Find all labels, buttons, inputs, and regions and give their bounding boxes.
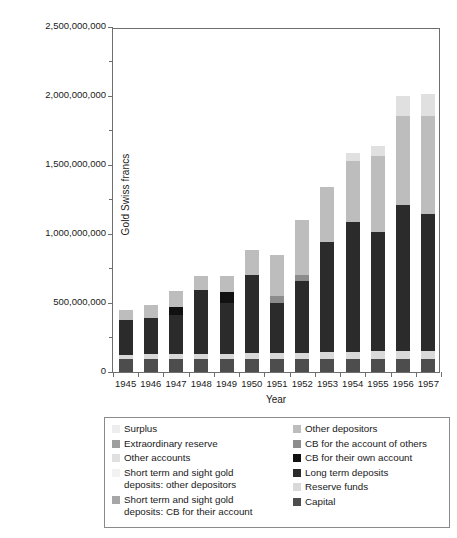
bar-1957 xyxy=(421,94,435,372)
legend-item-right-1[interactable]: CB for the account of others xyxy=(293,438,445,451)
bar-segment xyxy=(421,214,435,351)
bar-1948 xyxy=(194,276,208,372)
y-tick-label: 1,500,000,000 xyxy=(45,158,106,169)
bar-segment xyxy=(421,94,435,116)
bar-segment xyxy=(421,116,435,214)
y-minor-tick xyxy=(109,337,113,338)
plot-area: Gold Swiss francs 0500,000,0001,000,000,… xyxy=(112,28,440,373)
y-minor-tick xyxy=(109,61,113,62)
legend-swatch-icon xyxy=(112,440,120,448)
legend-item-right-4[interactable]: Reserve funds xyxy=(293,481,445,494)
x-tick-mark xyxy=(391,372,392,377)
y-tick-label: 500,000,000 xyxy=(53,296,106,307)
bar-segment xyxy=(270,303,284,353)
legend-label: Reserve funds xyxy=(305,481,368,494)
legend-column-left: SurplusExtraordinary reserveOther accoun… xyxy=(112,423,292,521)
bar-segment xyxy=(295,359,309,372)
bar-segment xyxy=(119,359,133,372)
bar-1952 xyxy=(295,220,309,372)
x-tick-label: 1947 xyxy=(165,378,186,389)
bar-segment xyxy=(169,359,183,372)
bar-segment xyxy=(421,351,435,359)
y-minor-tick xyxy=(109,130,113,131)
x-axis-title: Year xyxy=(113,394,439,405)
x-tick-label: 1956 xyxy=(393,378,414,389)
legend-item-left-0[interactable]: Surplus xyxy=(112,423,292,436)
bar-1956 xyxy=(396,96,410,372)
y-tick-label: 0 xyxy=(101,365,106,376)
x-tick-mark xyxy=(163,372,164,377)
legend-swatch-icon xyxy=(293,483,301,491)
y-tick-label: 2,500,000,000 xyxy=(45,20,106,31)
x-tick-mark xyxy=(214,372,215,377)
bar-segment xyxy=(396,351,410,359)
legend-label: CB for the account of others xyxy=(305,438,427,451)
legend-item-right-2[interactable]: CB for their own account xyxy=(293,452,445,465)
bar-segment xyxy=(346,359,360,372)
bar-segment xyxy=(220,359,234,372)
legend-item-right-3[interactable]: Long term deposits xyxy=(293,467,445,480)
y-tick-mark xyxy=(108,96,113,97)
legend-swatch-icon xyxy=(293,498,301,506)
x-tick-mark xyxy=(113,372,114,377)
y-tick-label: 2,000,000,000 xyxy=(45,89,106,100)
legend-label: Surplus xyxy=(124,423,157,436)
legend-swatch-icon xyxy=(293,425,301,433)
bar-segment xyxy=(220,292,234,302)
x-tick-label: 1951 xyxy=(266,378,287,389)
bar-segment xyxy=(346,161,360,222)
y-tick-label: 1,000,000,000 xyxy=(45,227,106,238)
bar-segment xyxy=(371,232,385,351)
legend-swatch-icon xyxy=(112,425,120,433)
bar-segment xyxy=(119,310,133,320)
legend-item-left-4[interactable]: Short term and sight gold deposits: CB f… xyxy=(112,494,292,519)
bar-segment xyxy=(169,291,183,307)
bar-segment xyxy=(270,255,284,296)
bar-segment xyxy=(320,187,334,242)
bar-1945 xyxy=(119,310,133,372)
x-tick-label: 1952 xyxy=(292,378,313,389)
x-tick-mark xyxy=(239,372,240,377)
bar-segment xyxy=(346,153,360,161)
bar-segment xyxy=(396,359,410,372)
bar-segment xyxy=(295,281,309,353)
legend-label: Other accounts xyxy=(124,452,190,465)
x-tick-label: 1950 xyxy=(241,378,262,389)
legend-item-left-1[interactable]: Extraordinary reserve xyxy=(112,438,292,451)
bar-segment xyxy=(295,220,309,275)
bar-segment xyxy=(320,352,334,359)
legend-label: Capital xyxy=(305,496,336,509)
legend-item-right-5[interactable]: Capital xyxy=(293,496,445,509)
bar-segment xyxy=(220,276,234,293)
bar-segment xyxy=(396,116,410,204)
y-minor-tick xyxy=(109,199,113,200)
x-tick-mark xyxy=(315,372,316,377)
bar-segment xyxy=(169,307,183,315)
bar-segment xyxy=(371,146,385,156)
bar-segment xyxy=(346,222,360,352)
legend-item-left-3[interactable]: Short term and sight gold deposits: othe… xyxy=(112,467,292,492)
bar-segment xyxy=(320,359,334,372)
x-tick-label: 1954 xyxy=(342,378,363,389)
bar-segment xyxy=(270,296,284,304)
bar-segment xyxy=(371,351,385,359)
x-tick-label: 1945 xyxy=(115,378,136,389)
bar-segment xyxy=(245,359,259,372)
bar-segment xyxy=(245,275,259,353)
bar-segment xyxy=(194,276,208,290)
y-tick-mark xyxy=(108,165,113,166)
legend-item-left-2[interactable]: Other accounts xyxy=(112,452,292,465)
bar-segment xyxy=(144,359,158,372)
legend-item-right-0[interactable]: Other depositors xyxy=(293,423,445,436)
x-tick-label: 1957 xyxy=(418,378,439,389)
bar-1947 xyxy=(169,291,183,372)
x-tick-label: 1949 xyxy=(216,378,237,389)
bar-1950 xyxy=(245,250,259,372)
x-tick-mark xyxy=(441,372,442,377)
bar-segment xyxy=(371,156,385,232)
chart-legend: SurplusExtraordinary reserveOther accoun… xyxy=(104,417,450,528)
y-minor-tick xyxy=(109,268,113,269)
legend-swatch-icon xyxy=(112,496,120,504)
x-tick-mark xyxy=(138,372,139,377)
x-tick-label: 1953 xyxy=(317,378,338,389)
